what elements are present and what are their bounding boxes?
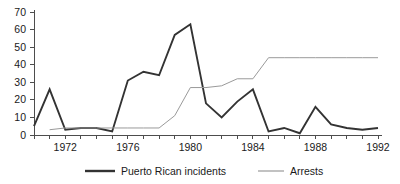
x-axis-tick-labels: 197219761980198419881992 [54, 141, 390, 153]
x-tick-label: 1984 [241, 141, 265, 153]
y-axis-tick-marks [30, 12, 34, 135]
x-tick-label: 1976 [116, 141, 140, 153]
x-tick-label: 1980 [179, 141, 203, 153]
y-tick-label: 0 [20, 129, 26, 141]
line-chart: 010203040506070 197219761980198419881992… [0, 0, 400, 184]
legend-item-arrests: Arrests [258, 165, 323, 177]
x-axis-tick-marks [34, 135, 378, 139]
y-tick-label: 50 [14, 41, 26, 53]
x-tick-label: 1972 [54, 141, 78, 153]
y-tick-label: 40 [14, 58, 26, 70]
legend-label: Puerto Rican incidents [121, 165, 226, 177]
y-tick-label: 10 [14, 111, 26, 123]
legend-label: Arrests [290, 165, 323, 177]
y-axis-tick-labels: 010203040506070 [14, 6, 26, 141]
legend-item-puerto-rican-incidents: Puerto Rican incidents [85, 165, 226, 177]
chart-container: 010203040506070 197219761980198419881992… [0, 0, 400, 184]
series-line-arrests [50, 58, 378, 130]
y-tick-label: 60 [14, 23, 26, 35]
chart-legend: Puerto Rican incidentsArrests [85, 165, 323, 177]
x-tick-label: 1992 [366, 141, 390, 153]
y-tick-label: 70 [14, 6, 26, 18]
y-tick-label: 20 [14, 93, 26, 105]
data-series-group [34, 24, 378, 133]
y-tick-label: 30 [14, 76, 26, 88]
series-line-puerto-rican-incidents [34, 24, 378, 133]
x-tick-label: 1988 [304, 141, 328, 153]
